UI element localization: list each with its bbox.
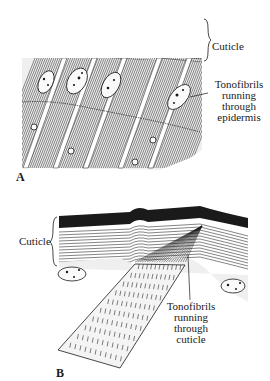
small-nucleus [31, 124, 37, 130]
panel-b-nucleus-left [58, 267, 86, 281]
panel-b-nucleus-right [221, 279, 245, 293]
panel-b-letter: B [56, 366, 64, 381]
panel-a-tonofibrils-label: Tonofibrils running through epidermis [208, 79, 270, 123]
diagram-canvas [0, 0, 270, 381]
panel-a-letter: A [16, 170, 25, 185]
panel-b-cuticle-brace [50, 217, 57, 266]
small-nucleus [150, 137, 156, 143]
small-nucleus [132, 159, 138, 165]
panel-a-cuticle-label: Cuticle [212, 41, 244, 52]
panel-b-cuticle-label: Cuticle [19, 236, 51, 247]
panel-b-tonofibrils-label: Tonofibrils running through cuticle [160, 301, 222, 345]
label-line: cuticle [160, 334, 222, 345]
panel-b-cuticle-surface [59, 206, 248, 228]
small-nucleus [68, 148, 74, 154]
label-line: epidermis [208, 112, 270, 123]
mask [0, 58, 22, 170]
